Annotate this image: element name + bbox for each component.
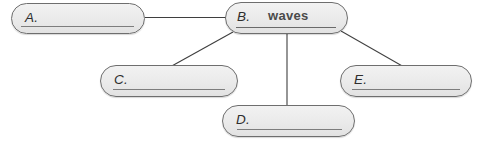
node-b[interactable]: B. waves — [225, 2, 348, 34]
node-d[interactable]: D. — [222, 105, 355, 137]
concept-map-diagram: A. B. waves C. D. E. — [0, 0, 483, 141]
node-e-label: E. — [354, 72, 367, 87]
connector-b-c — [170, 32, 233, 67]
node-c-write-line — [113, 89, 225, 90]
node-d-write-line — [237, 129, 342, 130]
node-a-label: A. — [25, 9, 38, 24]
node-b-write-line — [236, 27, 336, 28]
node-d-label: D. — [236, 112, 250, 127]
node-c-label: C. — [114, 72, 128, 87]
node-c[interactable]: C. — [100, 65, 238, 97]
node-e-write-line — [352, 89, 460, 90]
node-a[interactable]: A. — [11, 3, 145, 34]
node-e[interactable]: E. — [340, 65, 472, 97]
node-b-value: waves — [268, 8, 309, 23]
node-b-label: B. — [237, 9, 250, 24]
connector-b-e — [341, 31, 404, 67]
node-a-write-line — [21, 26, 134, 27]
